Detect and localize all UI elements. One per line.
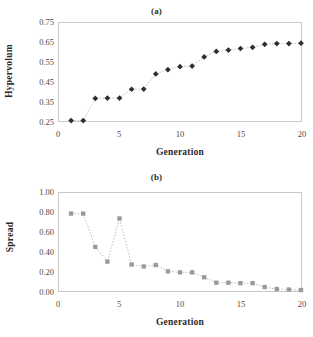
data-point-marker bbox=[69, 211, 73, 215]
data-point-marker bbox=[105, 95, 111, 101]
data-point-marker bbox=[226, 47, 232, 53]
data-point-marker bbox=[166, 269, 170, 273]
series-dotted-line bbox=[71, 43, 301, 120]
data-point-marker bbox=[286, 41, 292, 47]
panel-a-x-ticks: 05101520 bbox=[58, 130, 302, 142]
x-tick-label: 0 bbox=[46, 130, 70, 139]
y-tick-label: 0.45 bbox=[20, 78, 54, 87]
data-point-marker bbox=[165, 67, 171, 73]
data-point-marker bbox=[250, 281, 254, 285]
y-tick-label: 0.55 bbox=[20, 58, 54, 67]
data-point-marker bbox=[81, 211, 85, 215]
data-point-marker bbox=[153, 71, 159, 77]
data-point-marker bbox=[141, 86, 147, 92]
panel-a-series-svg bbox=[59, 23, 301, 121]
figure-container: (a) Hypervolum 0.250.350.450.550.650.75 … bbox=[0, 0, 313, 337]
x-tick-label: 15 bbox=[229, 300, 253, 309]
data-point-marker bbox=[117, 95, 123, 101]
panel-a-y-ticks: 0.250.350.450.550.650.75 bbox=[18, 22, 54, 122]
panel-a-plot-area bbox=[58, 22, 302, 122]
panel-b-y-ticks: 0.000.200.400.600.801.00 bbox=[18, 192, 54, 292]
y-tick-label: 1.00 bbox=[20, 188, 54, 197]
y-tick-label: 0.20 bbox=[20, 268, 54, 277]
chart-panel-b: (b) Spread 0.000.200.400.600.801.00 0510… bbox=[0, 170, 313, 337]
data-point-marker bbox=[263, 285, 267, 289]
data-point-marker bbox=[142, 264, 146, 268]
data-point-marker bbox=[93, 245, 97, 249]
data-point-marker bbox=[275, 287, 279, 291]
y-tick-label: 0.60 bbox=[20, 228, 54, 237]
data-point-marker bbox=[298, 40, 304, 46]
x-tick-label: 20 bbox=[290, 130, 313, 139]
data-point-marker bbox=[287, 287, 291, 291]
x-tick-label: 10 bbox=[168, 130, 192, 139]
data-point-marker bbox=[262, 42, 268, 48]
data-point-marker bbox=[226, 281, 230, 285]
panel-b-x-axis-label: Generation bbox=[58, 317, 302, 327]
y-tick-label: 0.75 bbox=[20, 18, 54, 27]
x-tick-label: 10 bbox=[168, 300, 192, 309]
y-tick-label: 0.40 bbox=[20, 248, 54, 257]
y-tick-label: 0.65 bbox=[20, 38, 54, 47]
chart-panel-a: (a) Hypervolum 0.250.350.450.550.650.75 … bbox=[0, 0, 313, 170]
x-tick-label: 5 bbox=[107, 300, 131, 309]
panel-b-plot-area bbox=[58, 192, 302, 292]
panel-b-title: (b) bbox=[0, 172, 313, 182]
data-point-marker bbox=[129, 262, 133, 266]
data-point-marker bbox=[129, 86, 135, 92]
data-point-marker bbox=[250, 44, 256, 50]
data-point-marker bbox=[68, 118, 74, 124]
x-tick-label: 5 bbox=[107, 130, 131, 139]
panel-a-x-axis-label: Generation bbox=[58, 147, 302, 157]
y-tick-label: 0.35 bbox=[20, 98, 54, 107]
data-point-marker bbox=[214, 281, 218, 285]
panel-b-series-svg bbox=[59, 193, 301, 291]
data-point-marker bbox=[299, 288, 303, 292]
series-dotted-line bbox=[71, 214, 301, 290]
panel-b-y-axis-label: Spread bbox=[5, 215, 15, 259]
y-tick-label: 0.00 bbox=[20, 288, 54, 297]
data-point-marker bbox=[178, 270, 182, 274]
x-tick-label: 15 bbox=[229, 130, 253, 139]
x-tick-label: 20 bbox=[290, 300, 313, 309]
data-point-marker bbox=[80, 118, 86, 124]
panel-a-title: (a) bbox=[0, 6, 313, 16]
data-point-marker bbox=[154, 263, 158, 267]
data-point-marker bbox=[177, 64, 183, 70]
data-point-marker bbox=[202, 275, 206, 279]
data-point-marker bbox=[92, 96, 98, 102]
y-tick-label: 0.80 bbox=[20, 208, 54, 217]
panel-a-y-axis-label: Hypervolum bbox=[4, 41, 14, 101]
data-point-marker bbox=[238, 46, 244, 52]
data-point-marker bbox=[238, 281, 242, 285]
data-point-marker bbox=[105, 259, 109, 263]
y-tick-label: 0.25 bbox=[20, 118, 54, 127]
data-point-marker bbox=[213, 49, 219, 55]
panel-b-x-ticks: 05101520 bbox=[58, 300, 302, 312]
data-point-marker bbox=[117, 216, 121, 220]
data-point-marker bbox=[190, 270, 194, 274]
x-tick-label: 0 bbox=[46, 300, 70, 309]
data-point-marker bbox=[274, 41, 280, 47]
